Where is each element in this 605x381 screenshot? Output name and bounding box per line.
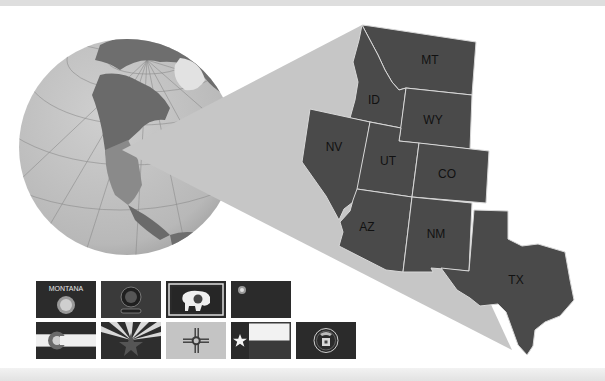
label-nv: NV [326,140,343,154]
flag-texas[interactable] [231,322,291,359]
flag-nevada[interactable] [231,281,291,318]
flag-montana[interactable]: MONTANA [36,281,96,318]
label-wy: WY [423,113,442,127]
label-ut: UT [380,154,397,168]
label-mt: MT [421,53,439,67]
flag-wyoming[interactable] [166,281,226,318]
bottom-border-band [0,368,605,381]
label-co: CO [438,167,456,181]
label-id: ID [368,93,380,107]
flag-idaho[interactable] [101,281,161,318]
flag-arizona[interactable] [101,322,161,359]
flag-utah[interactable] [296,322,356,359]
flag-colorado[interactable] [36,322,96,359]
flag-new-mexico[interactable] [166,322,226,359]
montana-flag-text: MONTANA [49,285,84,292]
label-nm: NM [427,227,446,241]
label-tx: TX [508,273,523,287]
label-az: AZ [359,220,374,234]
